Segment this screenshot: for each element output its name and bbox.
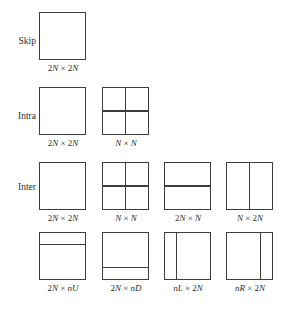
partition-cell-amp-2nxnu: 2N × nU (39, 226, 101, 298)
caption-var2: N (259, 283, 265, 293)
partition-caption: N × N (94, 138, 158, 149)
caption-var2: N (131, 138, 137, 148)
row-label-intra: Intra (0, 111, 36, 121)
partition-caption: N × N (94, 213, 158, 224)
partition-block (102, 87, 149, 135)
row-intra: Intra 2N × 2N N × N (0, 81, 289, 156)
partition-caption: 2N × 2N (31, 138, 95, 149)
divider-vertical (125, 163, 126, 209)
partition-cell-inter-2nxn: 2N × N (164, 156, 226, 228)
divider-vertical (249, 163, 250, 209)
caption-var2: nD (131, 283, 142, 293)
partition-block (102, 162, 149, 210)
caption-var2: N (72, 63, 78, 73)
partition-block (39, 232, 86, 280)
row-label-inter: Inter (0, 182, 36, 192)
partition-caption: 2N × 2N (31, 63, 95, 74)
caption-var1: nL (173, 283, 183, 293)
caption-var1: nR (235, 283, 245, 293)
partition-mode-figure: Skip 2N × 2N Intra 2N × 2N N × N (0, 0, 289, 313)
partition-caption: 2N × nU (31, 283, 95, 294)
partition-block (102, 232, 149, 280)
divider-horizontal (103, 267, 148, 268)
partition-block (226, 232, 273, 280)
partition-caption: 2N × N (156, 213, 220, 224)
row-label-skip: Skip (0, 36, 36, 46)
caption-mid: × 2 (245, 283, 259, 293)
partition-cell-inter-2nx2n: 2N × 2N (39, 156, 101, 228)
partition-cell-skip-2nx2n: 2N × 2N (39, 6, 101, 78)
divider-vertical (176, 233, 177, 279)
caption-mid: × (121, 213, 131, 223)
partition-block (39, 12, 86, 60)
partition-block (226, 162, 273, 210)
caption-var2: N (131, 213, 137, 223)
caption-mid: × 2 (58, 138, 72, 148)
partition-cell-intra-nxn: N × N (102, 81, 164, 153)
row-amp: 2N × nU 2N × nD nL × 2N nR × 2N (0, 226, 289, 301)
caption-mid: × (185, 213, 195, 223)
partition-cell-amp-nrx2n: nR × 2N (226, 226, 288, 298)
caption-var2: nU (68, 283, 79, 293)
caption-mid: × 2 (243, 213, 257, 223)
caption-mid: × 2 (58, 63, 72, 73)
row-inter: Inter 2N × 2N N × N 2N × N (0, 156, 289, 231)
caption-var2: N (257, 213, 263, 223)
partition-caption: N × 2N (218, 213, 282, 224)
partition-cell-intra-2nx2n: 2N × 2N (39, 81, 101, 153)
partition-caption: nL × 2N (156, 283, 220, 294)
partition-caption: nR × 2N (218, 283, 282, 294)
caption-mid: × (121, 138, 131, 148)
caption-mid: × 2 (183, 283, 197, 293)
caption-var2: N (197, 283, 203, 293)
caption-mid: × (121, 283, 131, 293)
caption-var2: N (72, 138, 78, 148)
partition-block (164, 162, 211, 210)
caption-mid: × 2 (58, 213, 72, 223)
partition-cell-inter-nxn: N × N (102, 156, 164, 228)
partition-cell-amp-nlx2n: nL × 2N (164, 226, 226, 298)
partition-cell-amp-2nxnd: 2N × nD (102, 226, 164, 298)
divider-vertical (125, 88, 126, 134)
partition-block (39, 162, 86, 210)
partition-caption: 2N × 2N (31, 213, 95, 224)
caption-mid: × (58, 283, 68, 293)
row-skip: Skip 2N × 2N (0, 6, 289, 81)
caption-var2: N (195, 213, 201, 223)
divider-vertical (260, 233, 261, 279)
partition-caption: 2N × nD (94, 283, 158, 294)
divider-horizontal (40, 244, 85, 245)
partition-cell-inter-nx2n: N × 2N (226, 156, 288, 228)
caption-var2: N (72, 213, 78, 223)
partition-block (164, 232, 211, 280)
divider-horizontal (165, 185, 210, 186)
partition-block (39, 87, 86, 135)
